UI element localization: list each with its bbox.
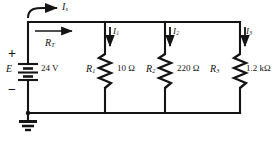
label-resistor-r1-value: 10 Ω [117,64,135,73]
label-source-value: 24 V [41,64,59,73]
label-source-negative: − [8,83,16,97]
label-branch3-current: I3 [246,27,252,37]
label-total-resistance: RT [45,38,55,49]
label-branch1-current: I1 [113,27,119,37]
label-resistor-r3-value: 1.2 kΩ [246,64,271,73]
circuit-diagram: Is RT + − E 24 V I1 I2 I3 R1 10 Ω R2 220… [0,0,279,142]
label-resistor-r2-value: 220 Ω [177,64,199,73]
resistor-r1-symbol [99,54,111,88]
label-resistor-r3-designator: R3 [210,64,219,75]
battery-symbol [18,64,38,80]
label-supply-current: Is [62,2,68,13]
label-resistor-r1-designator: R1 [86,64,95,75]
label-source-designator: E [6,64,12,74]
current-arrow-is [28,8,57,18]
resistor-r2-symbol [159,54,171,88]
label-source-positive: + [8,47,16,61]
label-resistor-r2-designator: R2 [146,64,155,75]
resistor-r3-symbol [234,54,246,88]
label-branch2-current: I2 [173,27,179,37]
